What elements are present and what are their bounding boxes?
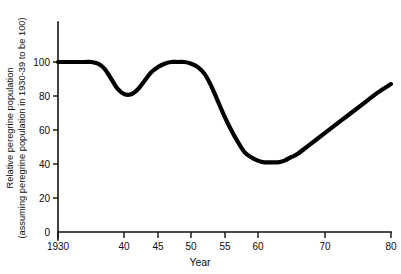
y-tick-60: 60 [39, 125, 58, 136]
x-tick-label: 80 [385, 241, 397, 252]
chart-figure: Relative peregrine population (assuming … [0, 0, 401, 274]
x-tick-label: 45 [152, 241, 164, 252]
y-axis-title-line2: (assuming peregrine population in 1930-3… [17, 17, 27, 238]
x-tick-label: 60 [252, 241, 264, 252]
y-axis-group: 100 80 60 40 20 0 [33, 22, 58, 240]
y-tick-label: 100 [33, 57, 50, 68]
y-tick-100: 100 [33, 57, 58, 68]
x-tick-1970: 70 [319, 232, 331, 252]
y-tick-label: 0 [44, 227, 50, 238]
y-tick-80: 80 [39, 91, 58, 102]
population-trend-line [58, 62, 391, 163]
y-tick-40: 40 [39, 159, 58, 170]
x-tick-1940: 40 [118, 232, 130, 252]
x-tick-1945: 45 [152, 232, 164, 252]
y-tick-0: 0 [44, 227, 50, 238]
x-tick-1950: 50 [185, 232, 197, 252]
x-tick-1960: 60 [252, 232, 264, 252]
x-tick-1955: 55 [219, 232, 231, 252]
x-axis-group: 1930 40 45 50 55 60 [47, 232, 397, 268]
y-tick-label: 20 [39, 193, 51, 204]
y-tick-20: 20 [39, 193, 58, 204]
y-tick-label: 60 [39, 125, 51, 136]
x-tick-label: 55 [219, 241, 231, 252]
y-axis-title-line1: Relative peregrine population [5, 68, 15, 189]
x-tick-label: 50 [185, 241, 197, 252]
x-axis-title: Year [189, 256, 211, 268]
peregrine-population-line-chart: Relative peregrine population (assuming … [0, 0, 401, 274]
x-tick-1930: 1930 [47, 232, 70, 252]
y-tick-label: 40 [39, 159, 51, 170]
x-tick-label: 1930 [47, 241, 70, 252]
y-axis-label-group: Relative peregrine population (assuming … [5, 17, 27, 238]
y-tick-label: 80 [39, 91, 51, 102]
x-tick-label: 40 [118, 241, 130, 252]
x-tick-1980: 80 [385, 232, 397, 252]
x-tick-label: 70 [319, 241, 331, 252]
